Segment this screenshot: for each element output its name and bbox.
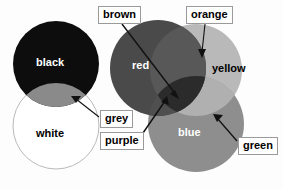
label-black: black — [36, 57, 64, 68]
callout-purple: purple — [100, 132, 144, 150]
label-yellow: yellow — [212, 63, 246, 74]
label-red: red — [132, 60, 149, 71]
venn-diagram-graphic — [0, 0, 283, 189]
callout-brown: brown — [98, 6, 141, 24]
callout-orange: orange — [186, 6, 233, 24]
diagram-canvas: black white red yellow blue brown orange… — [0, 0, 283, 189]
label-white: white — [36, 128, 64, 139]
callout-grey: grey — [100, 110, 133, 128]
callout-green: green — [238, 137, 278, 155]
label-blue: blue — [178, 127, 201, 138]
